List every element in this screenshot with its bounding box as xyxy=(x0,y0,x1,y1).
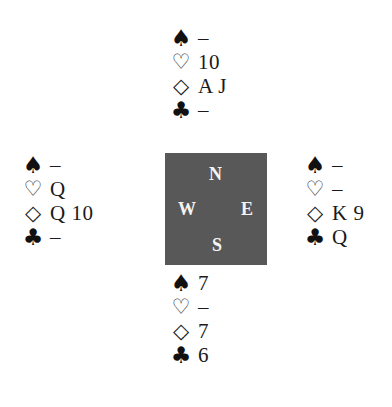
north-diamonds-row: ◇ A J xyxy=(170,74,227,98)
heart-icon: ♡ xyxy=(170,50,192,74)
spade-icon: ♠ xyxy=(304,153,326,177)
south-hearts-cards: – xyxy=(198,295,209,319)
west-clubs-cards: – xyxy=(50,225,61,249)
south-hand: ♠ 7 ♡ – ◇ 7 ♣ 6 xyxy=(170,271,209,367)
diamond-icon: ◇ xyxy=(304,201,326,225)
east-hearts-row: ♡ – xyxy=(304,177,364,201)
west-spades-cards: – xyxy=(50,153,61,177)
west-diamonds-row: ◇ Q 10 xyxy=(22,201,93,225)
east-spades-row: ♠ – xyxy=(304,153,364,177)
spade-icon: ♠ xyxy=(170,271,192,295)
east-spades-cards: – xyxy=(332,153,343,177)
north-hearts-cards: 10 xyxy=(198,50,220,74)
east-diamonds-row: ◇ K 9 xyxy=(304,201,364,225)
west-spades-row: ♠ – xyxy=(22,153,93,177)
compass-box: N W E S xyxy=(165,153,267,265)
west-clubs-row: ♣ – xyxy=(22,225,93,249)
north-spades-row: ♠ – xyxy=(170,26,227,50)
east-clubs-cards: Q xyxy=(332,225,348,249)
north-clubs-cards: – xyxy=(198,98,209,122)
compass-south-label: S xyxy=(212,236,222,254)
south-clubs-cards: 6 xyxy=(198,343,209,367)
club-icon: ♣ xyxy=(170,98,192,122)
heart-icon: ♡ xyxy=(170,295,192,319)
south-hearts-row: ♡ – xyxy=(170,295,209,319)
compass-east-label: E xyxy=(241,200,253,218)
west-hearts-row: ♡ Q xyxy=(22,177,93,201)
diamond-icon: ◇ xyxy=(170,74,192,98)
east-clubs-row: ♣ Q xyxy=(304,225,364,249)
spade-icon: ♠ xyxy=(22,153,44,177)
north-hearts-row: ♡ 10 xyxy=(170,50,227,74)
east-diamonds-cards: K 9 xyxy=(332,201,364,225)
south-clubs-row: ♣ 6 xyxy=(170,343,209,367)
compass-north-label: N xyxy=(209,165,222,183)
club-icon: ♣ xyxy=(170,343,192,367)
west-hand: ♠ – ♡ Q ◇ Q 10 ♣ – xyxy=(22,153,93,249)
south-diamonds-cards: 7 xyxy=(198,319,209,343)
diamond-icon: ◇ xyxy=(22,201,44,225)
spade-icon: ♠ xyxy=(170,26,192,50)
west-diamonds-cards: Q 10 xyxy=(50,201,93,225)
west-hearts-cards: Q xyxy=(50,177,66,201)
south-spades-cards: 7 xyxy=(198,271,209,295)
north-spades-cards: – xyxy=(198,26,209,50)
east-hearts-cards: – xyxy=(332,177,343,201)
heart-icon: ♡ xyxy=(304,177,326,201)
south-diamonds-row: ◇ 7 xyxy=(170,319,209,343)
heart-icon: ♡ xyxy=(22,177,44,201)
south-spades-row: ♠ 7 xyxy=(170,271,209,295)
club-icon: ♣ xyxy=(304,225,326,249)
compass-west-label: W xyxy=(178,200,196,218)
club-icon: ♣ xyxy=(22,225,44,249)
diamond-icon: ◇ xyxy=(170,319,192,343)
north-clubs-row: ♣ – xyxy=(170,98,227,122)
east-hand: ♠ – ♡ – ◇ K 9 ♣ Q xyxy=(304,153,364,249)
north-diamonds-cards: A J xyxy=(198,74,227,98)
north-hand: ♠ – ♡ 10 ◇ A J ♣ – xyxy=(170,26,227,122)
